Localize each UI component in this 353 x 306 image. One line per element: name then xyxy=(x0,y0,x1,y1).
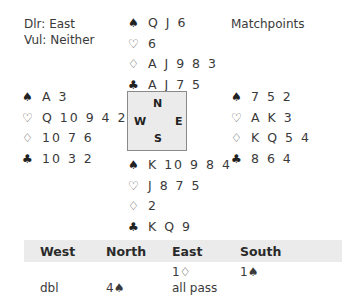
north-diamonds: ♢A J 9 8 3 xyxy=(128,54,218,75)
compass-west: W xyxy=(134,115,146,128)
heart-icon: ♡ xyxy=(128,35,148,55)
west-clubs: ♣10 3 2 xyxy=(22,149,128,170)
south-spades: ♠K 10 9 8 4 xyxy=(128,155,232,176)
west-hearts: ♡Q 10 9 4 2 xyxy=(22,108,128,129)
east-hand: ♠7 5 2 ♡A K 3 ♢K Q 5 4 ♣8 6 4 xyxy=(231,87,311,169)
spade-icon: ♠ xyxy=(22,88,42,108)
bid-south: 1♠ xyxy=(224,265,292,279)
compass-east: E xyxy=(175,115,183,128)
header-west: West xyxy=(24,244,90,259)
east-diamonds: ♢K Q 5 4 xyxy=(231,128,311,149)
header-east: East xyxy=(156,244,224,259)
compass-south: S xyxy=(154,132,162,145)
heart-icon: ♡ xyxy=(22,109,42,129)
spade-icon: ♠ xyxy=(128,14,148,34)
east-spades: ♠7 5 2 xyxy=(231,87,311,108)
header-north: North xyxy=(90,244,156,259)
bid-west: dbl xyxy=(24,281,90,295)
west-hand: ♠A 3 ♡Q 10 9 4 2 ♢10 7 6 ♣10 3 2 xyxy=(22,87,128,169)
auction-table: West North East South 1♢ 1♠ dbl 4♠ all p… xyxy=(24,240,342,296)
scoring-label: Matchpoints xyxy=(231,16,304,32)
dealer-label: Dlr: East xyxy=(24,16,95,32)
compass-box: N W E S xyxy=(127,91,187,151)
east-clubs: ♣8 6 4 xyxy=(231,149,311,170)
heart-icon: ♡ xyxy=(128,177,148,197)
bid-east: 1♢ xyxy=(156,265,224,279)
auction-row: dbl 4♠ all pass xyxy=(24,280,342,296)
north-hearts: ♡6 xyxy=(128,34,218,55)
auction-header: West North East South xyxy=(24,240,342,262)
bid-east: all pass xyxy=(156,281,224,295)
bid-north: 4♠ xyxy=(90,281,156,295)
spade-icon: ♠ xyxy=(128,156,148,176)
diamond-icon: ♢ xyxy=(231,129,251,149)
club-icon: ♣ xyxy=(231,150,251,170)
club-icon: ♣ xyxy=(22,150,42,170)
west-spades: ♠A 3 xyxy=(22,87,128,108)
west-diamonds: ♢10 7 6 xyxy=(22,128,128,149)
club-icon: ♣ xyxy=(128,218,148,238)
auction-row: 1♢ 1♠ xyxy=(24,264,342,280)
diamond-icon: ♢ xyxy=(22,129,42,149)
south-diamonds: ♢2 xyxy=(128,196,232,217)
diamond-icon: ♢ xyxy=(128,197,148,217)
deal-info: Dlr: East Vul: Neither xyxy=(24,16,95,48)
vulnerability-label: Vul: Neither xyxy=(24,32,95,48)
heart-icon: ♡ xyxy=(231,109,251,129)
south-clubs: ♣K Q 9 xyxy=(128,217,232,238)
east-hearts: ♡A K 3 xyxy=(231,108,311,129)
spade-icon: ♠ xyxy=(231,88,251,108)
south-hand: ♠K 10 9 8 4 ♡J 8 7 5 ♢2 ♣K Q 9 xyxy=(128,155,232,237)
compass-north: N xyxy=(153,97,162,110)
south-hearts: ♡J 8 7 5 xyxy=(128,176,232,197)
north-hand: ♠Q J 6 ♡6 ♢A J 9 8 3 ♣A J 7 5 xyxy=(128,13,218,95)
header-south: South xyxy=(224,244,292,259)
north-spades: ♠Q J 6 xyxy=(128,13,218,34)
diamond-icon: ♢ xyxy=(128,55,148,75)
